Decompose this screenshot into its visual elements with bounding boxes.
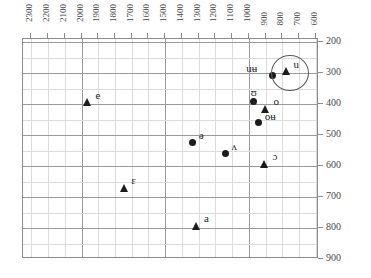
x-axis-tick-label: 600 xyxy=(310,12,319,26)
gridline-horizontal xyxy=(23,42,317,43)
plot-area: uʉʊoʉəʌuoɔeɛa xyxy=(22,38,318,258)
gridline-vertical xyxy=(48,39,49,257)
y-axis-tick xyxy=(318,196,323,197)
triangle-marker xyxy=(192,222,200,230)
gridline-vertical xyxy=(98,39,99,257)
x-axis-tick xyxy=(231,33,232,38)
gridline-horizontal xyxy=(23,166,317,167)
y-axis-tick-label: 800 xyxy=(326,222,341,232)
vowel-formant-chart: uʉʊoʉəʌuoɔeɛa 23002200210020001900180017… xyxy=(0,0,371,278)
y-axis-tick-label: 200 xyxy=(326,36,341,46)
gridline-vertical xyxy=(132,39,133,257)
x-axis-tick xyxy=(131,33,132,38)
x-axis-tick-label: 1300 xyxy=(193,4,202,22)
gridline-vertical xyxy=(65,39,66,257)
data-point-label: e xyxy=(95,90,100,101)
y-axis-tick xyxy=(318,72,323,73)
gridline-horizontal-minor xyxy=(23,244,317,245)
x-axis-tick xyxy=(97,33,98,38)
x-axis-tick-label: 2300 xyxy=(25,4,34,22)
x-axis-tick xyxy=(298,33,299,38)
highlight-ellipse xyxy=(271,55,309,91)
data-point-label: a xyxy=(204,213,209,224)
x-axis-tick-label: 700 xyxy=(293,12,302,26)
circle-marker xyxy=(250,98,257,105)
x-axis-tick-label: 2200 xyxy=(42,4,51,22)
gridline-vertical xyxy=(115,39,116,257)
y-axis-tick-label: 500 xyxy=(326,129,341,139)
x-axis-tick xyxy=(164,33,165,38)
x-axis-tick xyxy=(315,33,316,38)
y-axis-tick-label: 600 xyxy=(326,160,341,170)
x-axis-tick xyxy=(248,33,249,38)
gridline-vertical xyxy=(215,39,216,257)
circle-marker xyxy=(189,139,196,146)
x-axis-tick xyxy=(198,33,199,38)
triangle-marker xyxy=(260,160,268,168)
x-axis-tick-label: 1500 xyxy=(159,4,168,22)
gridline-vertical xyxy=(148,39,149,257)
y-axis-tick xyxy=(318,165,323,166)
x-axis-tick xyxy=(114,33,115,38)
data-point-label: uʉ xyxy=(246,63,257,74)
x-axis-tick xyxy=(265,33,266,38)
x-axis-tick-label: 1700 xyxy=(126,4,135,22)
y-axis-tick-label: 900 xyxy=(326,253,341,263)
triangle-marker xyxy=(83,98,91,106)
x-axis-tick xyxy=(181,33,182,38)
x-axis-tick xyxy=(214,33,215,38)
x-axis-tick-label: 800 xyxy=(276,12,285,26)
x-axis-tick-label: 1400 xyxy=(176,4,185,22)
data-point-label: ə xyxy=(199,130,204,141)
y-axis-tick xyxy=(318,103,323,104)
x-axis-tick xyxy=(81,33,82,38)
gridline-horizontal-minor xyxy=(23,182,317,183)
gridline-vertical xyxy=(316,39,317,257)
y-axis-tick xyxy=(318,227,323,228)
data-point-label: ʌ xyxy=(231,141,237,152)
x-axis-tick xyxy=(281,33,282,38)
x-axis-tick-label: 1000 xyxy=(243,4,252,22)
gridline-horizontal xyxy=(23,197,317,198)
gridline-vertical xyxy=(165,39,166,257)
triangle-marker xyxy=(261,105,269,113)
x-axis-tick xyxy=(64,33,65,38)
data-point-label: ɔ xyxy=(273,151,278,162)
x-axis-tick-label: 2000 xyxy=(76,4,85,22)
gridline-horizontal xyxy=(23,228,317,229)
gridline-horizontal-minor xyxy=(23,89,317,90)
gridline-horizontal-minor xyxy=(23,58,317,59)
y-axis-tick xyxy=(318,41,323,42)
gridline-vertical xyxy=(266,39,267,257)
x-axis-tick xyxy=(30,33,31,38)
data-point-label: ʊ xyxy=(251,87,257,98)
x-axis-tick-label: 2100 xyxy=(59,4,68,22)
x-axis-tick-label: 1800 xyxy=(109,4,118,22)
gridline-vertical xyxy=(82,39,83,257)
gridline-horizontal-minor xyxy=(23,213,317,214)
gridline-horizontal xyxy=(23,135,317,136)
gridline-vertical xyxy=(182,39,183,257)
triangle-marker xyxy=(120,184,128,192)
x-axis-tick xyxy=(147,33,148,38)
y-axis-tick xyxy=(318,258,323,259)
y-axis-tick-label: 300 xyxy=(326,67,341,77)
y-axis-tick-label: 400 xyxy=(326,98,341,108)
x-axis-tick-label: 900 xyxy=(260,12,269,26)
x-axis-tick-label: 1200 xyxy=(209,4,218,22)
gridline-vertical xyxy=(31,39,32,257)
x-axis-tick-label: 1100 xyxy=(226,4,235,22)
x-axis-tick-label: 1600 xyxy=(142,4,151,22)
y-axis-tick xyxy=(318,134,323,135)
data-point-label: ɛ xyxy=(131,175,136,186)
data-point-label: o xyxy=(274,96,280,107)
y-axis-tick-label: 700 xyxy=(326,191,341,201)
x-axis-tick xyxy=(47,33,48,38)
circle-marker xyxy=(222,150,229,157)
x-axis-tick-label: 1900 xyxy=(92,4,101,22)
circle-marker xyxy=(255,119,262,126)
